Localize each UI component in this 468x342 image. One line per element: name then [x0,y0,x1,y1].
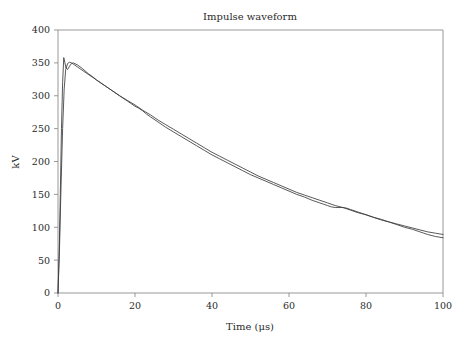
y-tick-label: 350 [32,57,50,68]
x-tick-label: 80 [360,300,372,311]
y-tick-label: 150 [32,189,50,200]
y-tick-label: 400 [32,24,50,35]
y-tick-label: 250 [32,123,50,134]
x-tick-label: 100 [434,300,452,311]
y-axis-ticks: 050100150200250300350400 [32,24,58,298]
x-tick-label: 0 [55,300,61,311]
x-tick-label: 20 [129,300,141,311]
chart-canvas: Impulse waveform 05010015020025030035040… [0,0,468,342]
plot-frame [58,30,443,293]
y-tick-label: 0 [44,287,50,298]
y-tick-label: 300 [32,90,50,101]
y-tick-label: 100 [32,222,50,233]
y-tick-label: 50 [38,255,50,266]
x-axis-label: Time (μs) [226,321,274,332]
impulse-waveform-figure: Impulse waveform 05010015020025030035040… [0,0,468,342]
x-tick-label: 60 [283,300,295,311]
x-tick-label: 40 [206,300,218,311]
chart-title: Impulse waveform [203,11,297,22]
series-line-1 [58,62,443,293]
x-axis-ticks: 020406080100 [55,293,452,311]
y-axis-label: kV [10,155,21,169]
y-tick-label: 200 [32,156,50,167]
data-series-group [58,58,443,293]
